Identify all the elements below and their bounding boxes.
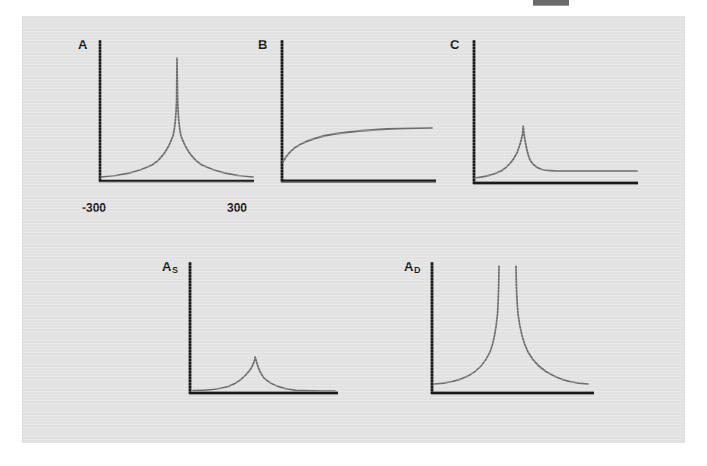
panel-b-curve xyxy=(283,128,432,162)
panel-as-label-sub: S xyxy=(172,265,178,275)
panel-a-label: A xyxy=(78,38,88,51)
panel-b: B xyxy=(254,34,444,199)
panel-a: A -300 300 xyxy=(74,34,264,199)
top-cropped-bar-fragment xyxy=(533,0,569,6)
panel-b-label-text: B xyxy=(258,37,268,52)
panel-ad-label-text: A xyxy=(404,259,414,274)
panel-ad: AD xyxy=(404,256,604,411)
panel-ad-curve-left xyxy=(434,266,499,384)
figure-page: A -300 300 B xyxy=(0,0,707,466)
panel-as: AS xyxy=(162,256,347,411)
panel-ad-label: AD xyxy=(404,260,420,273)
panel-ad-label-sub: D xyxy=(414,265,421,275)
panel-b-label: B xyxy=(258,38,268,51)
panel-c-plot xyxy=(444,34,644,199)
panel-c-label-text: C xyxy=(450,37,460,52)
panel-as-label-text: A xyxy=(162,259,172,274)
panel-a-xtick-right: 300 xyxy=(227,202,247,214)
figure-plate: A -300 300 B xyxy=(22,16,685,443)
panel-as-label: AS xyxy=(162,260,178,273)
panel-a-curve xyxy=(101,58,253,177)
panel-ad-curve-right xyxy=(516,266,588,384)
panel-ad-plot xyxy=(404,256,604,411)
panel-a-plot xyxy=(74,34,264,199)
panel-c-label: C xyxy=(450,38,460,51)
panel-b-plot xyxy=(254,34,444,199)
panel-c: C xyxy=(444,34,644,199)
panel-a-label-text: A xyxy=(78,37,88,52)
panel-c-curve xyxy=(475,126,637,178)
panel-as-plot xyxy=(162,256,347,411)
panel-as-curve xyxy=(193,357,335,391)
panel-a-xtick-left: -300 xyxy=(82,202,106,214)
